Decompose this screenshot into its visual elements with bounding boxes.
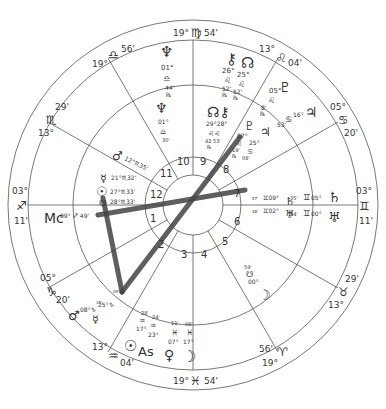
cusp-ur-deg: 13° (259, 44, 275, 54)
cusp-lol-deg: 13° (92, 342, 108, 352)
chiron-sign: ♌ (224, 76, 231, 85)
cusp-ru-min: 20' (344, 128, 358, 138)
house-2: 2 (158, 239, 164, 250)
mercury-lower-icon: ☿ (92, 313, 99, 326)
house-1: 1 (150, 213, 156, 224)
pluto-inner-deg: 07° (237, 132, 248, 139)
cusp-ur-min: 04' (288, 58, 302, 68)
taurus-icon: ♉ (338, 285, 349, 299)
sun-icon: ☉ (96, 184, 108, 199)
libra-icon: ♎ (108, 48, 119, 62)
aq1-deg: 17° (136, 325, 147, 332)
house-5: 5 (222, 236, 228, 247)
cusp-bottom-min: 54' (204, 376, 218, 386)
saturn-sign: ♊ (303, 193, 310, 202)
scorpio-icon: ♏ (46, 113, 57, 127)
aq2-sign: ♒ (150, 322, 156, 330)
cusp-rl-min: 29' (345, 274, 359, 284)
house-10: 10 (177, 156, 190, 167)
cusp-ll-deg: 05° (40, 273, 56, 283)
astrology-chart: 1 2 3 4 5 6 7 8 9 10 11 12 19° ♍ 54' 19°… (0, 0, 386, 409)
cusp-right-deg: 03° (356, 186, 372, 196)
cusp-ll-min: 20' (56, 295, 70, 305)
sagittarius-icon: ♐ (16, 199, 27, 213)
aq1-sign: ♒ (139, 317, 145, 325)
house-6: 6 (234, 216, 240, 227)
uranus-inner-min: 48' (252, 209, 258, 214)
mars-lower-icon: ♂ (68, 308, 80, 323)
neptune-inner-sign: ♎ (160, 128, 166, 136)
house-12: 12 (150, 189, 163, 200)
pi2-deg: 17° (183, 338, 194, 345)
house-numbers: 1 2 3 4 5 6 7 8 9 10 11 12 (150, 156, 240, 260)
sn-deg: 00° (248, 278, 259, 285)
neptune-min: 44' (165, 84, 175, 91)
neptune-icon: ♆ (160, 43, 173, 61)
cusp-lol-min: 04' (120, 358, 134, 368)
cusp-left-deg: 03° (12, 186, 28, 196)
pi2-min: 08' (185, 321, 193, 327)
south-node-icon: ☋ (99, 199, 106, 208)
pluto-deg: 05° (269, 87, 281, 95)
house-8: 8 (223, 164, 229, 175)
cusp-lu-deg: 13° (38, 128, 54, 138)
neptune-inner-icon: ♆ (155, 100, 168, 116)
sun-pos: 27°♏33' (110, 188, 136, 195)
moon-icon: ☽ (258, 287, 271, 303)
cusp-lr-min: 56' (259, 344, 273, 354)
house-11: 11 (160, 168, 173, 179)
chiron-icon: ⚷ (226, 50, 237, 68)
mercury-pos: 21°♏32' (111, 174, 137, 181)
cusp-lu-min: 29' (55, 102, 69, 112)
mars-lower-pos: 08°♑ (80, 306, 96, 313)
mars-pos: 12°♏35' (124, 155, 150, 172)
cusp-lr-deg: 19° (262, 358, 278, 368)
jupiter-min: 53' (277, 121, 287, 128)
node-retro: ℞ (233, 94, 238, 101)
node-chiron-deg: 29°28° (206, 120, 227, 127)
aries-icon: ♈ (277, 345, 288, 359)
uranus-inner-pos: ♊02° (263, 207, 279, 214)
aquarius-icon: ♒ (108, 349, 119, 363)
cusp-bottom-deg: 19° (173, 376, 189, 386)
cusp-top-deg: 19° (173, 28, 189, 38)
chiron-retro: ℞ (222, 91, 227, 98)
aq2-deg: 23° (148, 331, 159, 338)
mercury-lower-pos: 25°♑ (98, 301, 114, 308)
mc-pos: 09° ♐ 49' (60, 212, 89, 219)
aq1-min: 28' (141, 310, 149, 316)
uranus-sign: ♊ (303, 209, 310, 218)
aq2-min: 24' (152, 314, 160, 320)
south-node-pos: 28°♏33' (110, 198, 136, 205)
neptune-retro: ℞ (166, 91, 171, 98)
jupiter-inner-icon: ♃ (260, 125, 271, 139)
cancer-icon: ♋ (338, 113, 349, 127)
leo-icon: ♌ (276, 51, 287, 65)
uranus-icon: ♅ (328, 209, 341, 225)
saturn-icon: ♄ (328, 189, 341, 205)
pi1-deg: 07° (168, 338, 179, 345)
pluto-sign: ♌ (268, 96, 275, 105)
pisces-icon: ♓ (190, 374, 201, 388)
jupiter-icon: ♃ (305, 104, 318, 120)
sun-as-icon: ☉ (124, 337, 137, 355)
neptune-sign: ♎ (163, 74, 170, 83)
mercury-lower-min: 09' (113, 289, 119, 294)
pluto-inner-icon: ♇ (244, 119, 255, 133)
mars-icon: ♂ (112, 149, 123, 163)
pi1-sign: ♓ (171, 328, 178, 337)
node-chiron-sign: ♌♌ (208, 130, 221, 138)
ascendant-label: As (138, 344, 154, 359)
cusp-ul-min: 56' (121, 44, 135, 54)
pluto-inner-retro: ℞ (232, 153, 237, 159)
cusp-top-min: 54' (204, 28, 218, 38)
saturn-inner-pos: ♊09° (263, 194, 279, 201)
cusp-ru-deg: 05° (330, 102, 346, 112)
moon-lower-icon: ☽ (182, 347, 196, 366)
house-7: 7 (234, 188, 240, 199)
pluto-retro: ℞ (260, 110, 265, 117)
gemini-icon: ♊ (359, 199, 370, 213)
neptune-inner-deg: 01° (158, 118, 169, 125)
cusp-right-min: 11' (359, 216, 373, 226)
cusp-ul-deg: 19° (92, 59, 108, 69)
